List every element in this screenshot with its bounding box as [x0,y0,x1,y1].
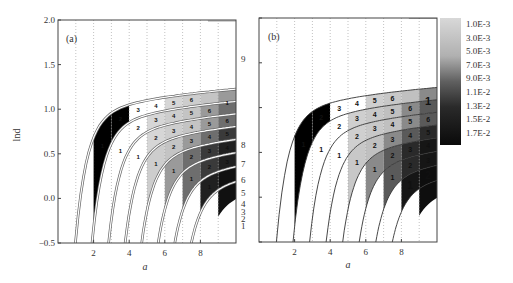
region-number: 2 [355,133,359,140]
curve-label: 6 [241,175,246,185]
region-number: 1 [355,159,359,166]
x-tick-label: 4 [127,248,132,258]
curve-label: 1 [241,221,246,231]
region-number: 6 [426,116,430,123]
x-tick-label: 4 [328,247,333,257]
region-number: 6 [408,105,412,112]
colorbar-label: 1.0E-3 [466,19,491,29]
region-number: 3 [408,146,412,153]
panel-a: 123456123456123456123451234123121 2468−0… [11,15,246,272]
x-tick-label: 2 [91,248,96,258]
colorbar-label: 1.7E-2 [466,128,490,138]
region-number: 4 [373,111,377,118]
region-number: 3 [391,136,395,143]
region-number: 1 [302,141,306,148]
x-tick-label: 6 [364,247,369,257]
region-number: 1 [373,166,377,173]
region-number: 1 [319,146,323,153]
region-number: 1 [408,180,414,191]
region-number: 5 [426,129,430,136]
panel-b: 123456123456123456123451234123121 2468 (… [259,18,437,270]
colorbar-label: 1.3E-2 [466,101,490,111]
curve-label: 8 [241,140,246,150]
region-number: 2 [425,170,431,181]
region-number: 6 [391,95,395,102]
x-tick-label: 2 [292,247,297,257]
colorbar-label: 9.0E-3 [466,73,491,83]
region-number: 2 [373,142,377,149]
region-number: 4 [408,132,412,139]
region-number: 2 [337,123,341,130]
panel-a-label: (a) [66,33,77,45]
x-axis-label-a: a [143,261,148,272]
curve-label: 7 [241,159,246,169]
region-number: 1 [425,95,431,107]
figure: 123456123456123456123451234123121 2468−0… [0,0,513,283]
region-number: 5 [408,118,412,125]
region-number: 1 [337,152,341,159]
region-number: 4 [355,100,359,107]
y-tick-label: 1.0 [44,104,56,114]
colorbar-label: 7.0E-3 [466,60,491,70]
panel-b-label: (b) [268,31,280,43]
region-number: 2 [391,152,395,159]
region-number: 2 [319,114,323,121]
colorbar-label: 1.1E-2 [466,87,490,97]
region-number: 2 [408,162,412,169]
region-number: 4 [391,121,395,128]
region-number: 3 [355,115,359,122]
region-number: 3 [426,157,430,164]
colorbar: 1.0E-33.0E-35.0E-37.0E-39.0E-31.1E-21.3E… [440,18,491,145]
region-number: 3 [337,105,341,112]
colorbar-label: 5.0E-3 [466,46,491,56]
colorbar-label: 1.5E-2 [466,114,490,124]
y-tick-label: −0.5 [39,238,56,248]
y-tick-label: 2.0 [44,15,56,25]
colorbar-gradient [440,18,461,145]
y-axis-label: lnd [11,129,22,142]
colorbar-label: 3.0E-3 [466,33,491,43]
x-tick-label: 8 [198,248,203,258]
region-number: 5 [373,97,377,104]
x-axis-label-b: a [346,259,351,270]
region-number: 5 [391,108,395,115]
x-tick-label: 6 [163,248,168,258]
region-number: 1 [391,174,395,181]
y-tick-label: 1.5 [44,60,56,70]
region-number: 3 [373,125,377,132]
x-tick-label: 8 [399,247,404,257]
curve-label: 9 [241,54,246,64]
y-tick-label: 0.5 [44,149,56,159]
y-tick-label: 0.0 [44,193,56,203]
region-number: 4 [426,142,430,149]
curve-label: 5 [241,188,246,198]
